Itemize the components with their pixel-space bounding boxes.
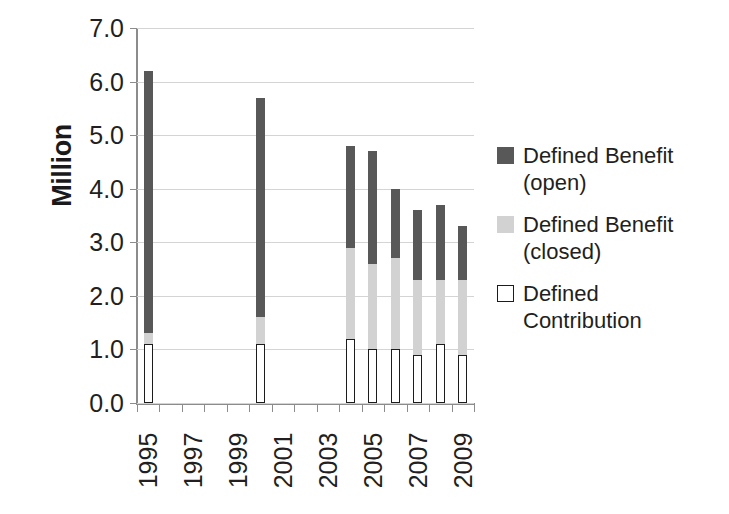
bar-segment-defined-benefit-closed[interactable] [256,317,265,344]
x-tick-mark [227,404,228,412]
y-tick-mark [130,28,137,29]
bar-segment-defined-benefit-closed[interactable] [144,333,153,344]
x-tick-mark [317,404,318,412]
y-tick-mark [130,82,137,83]
gridline [137,296,474,297]
bar-segment-defined-benefit-closed[interactable] [413,280,422,355]
gridline [137,189,474,190]
bar-segment-defined-benefit-open[interactable] [436,205,445,280]
x-tick-mark [159,404,160,412]
x-tick-label-2001: 2001 [271,421,296,501]
gridline [137,28,474,29]
bar-2004[interactable] [346,146,355,403]
x-tick-mark [249,404,250,412]
bar-2008[interactable] [436,205,445,403]
stacked-bar-chart: Million 0.01.02.03.04.05.06.07.0 1995199… [0,0,729,514]
x-axis-tick-labels: 19951997199920012003200520072009 [137,412,477,512]
bar-2006[interactable] [391,189,400,403]
y-tick-mark [130,242,137,243]
y-tick-mark [130,349,137,350]
x-tick-mark [182,404,183,412]
bar-segment-defined-contribution[interactable] [346,339,355,403]
gridline [137,82,474,83]
gridline [137,349,474,350]
y-tick-label: 0.0 [58,391,124,416]
y-tick-label: 7.0 [58,16,124,41]
y-tick-mark [130,296,137,297]
legend-label-line2: (closed) [523,238,673,265]
x-tick-mark [384,404,385,412]
bar-segment-defined-benefit-open[interactable] [458,226,467,280]
legend-swatch-icon [497,216,514,233]
bar-segment-defined-benefit-open[interactable] [391,189,400,259]
bar-segment-defined-contribution[interactable] [368,349,377,403]
gridline [137,242,474,243]
bar-2007[interactable] [413,210,422,403]
y-tick-label: 5.0 [58,123,124,148]
bar-segment-defined-benefit-open[interactable] [346,146,355,248]
bar-segment-defined-benefit-closed[interactable] [458,280,467,355]
gridline [137,135,474,136]
bar-segment-defined-benefit-open[interactable] [413,210,422,280]
x-tick-mark [474,404,475,412]
bar-2009[interactable] [458,226,467,403]
bar-segment-defined-benefit-closed[interactable] [346,248,355,339]
x-tick-label-1995: 1995 [136,421,161,501]
x-tick-label-1999: 1999 [226,421,251,501]
bar-2005[interactable] [368,151,377,403]
bar-2000[interactable] [256,98,265,403]
y-tick-label: 3.0 [58,230,124,255]
y-tick-label: 6.0 [58,70,124,95]
bar-segment-defined-contribution[interactable] [436,344,445,403]
x-tick-mark [272,404,273,412]
bar-segment-defined-contribution[interactable] [458,355,467,403]
y-axis-tick-labels: 0.01.02.03.04.05.06.07.0 [58,0,124,514]
plot-background [137,28,474,403]
plot-area [137,28,474,403]
y-tick-label: 2.0 [58,284,124,309]
legend-item-1[interactable]: Defined Benefit(closed) [497,211,722,265]
x-tick-mark [429,404,430,412]
gridline [137,403,474,404]
legend-label: Defined Benefit(open) [523,142,673,196]
bar-segment-defined-benefit-closed[interactable] [436,280,445,344]
y-tick-mark [130,135,137,136]
chart-legend: Defined Benefit(open)Defined Benefit(clo… [497,142,722,349]
x-tick-mark [407,404,408,412]
legend-label-line2: Contribution [523,307,642,334]
legend-label: DefinedContribution [523,280,642,334]
x-tick-mark [137,404,138,412]
legend-swatch-icon [497,285,514,302]
legend-label-line1: Defined [523,281,599,306]
x-tick-mark [204,404,205,412]
legend-item-2[interactable]: DefinedContribution [497,280,722,334]
y-tick-mark [130,189,137,190]
bar-segment-defined-contribution[interactable] [391,349,400,403]
y-axis-line [136,28,138,404]
x-tick-mark [362,404,363,412]
x-tick-label-2003: 2003 [315,421,340,501]
x-tick-label-2007: 2007 [405,421,430,501]
x-tick-mark [452,404,453,412]
bar-segment-defined-benefit-open[interactable] [144,71,153,334]
x-tick-mark [339,404,340,412]
x-tick-label-2005: 2005 [360,421,385,501]
y-tick-mark [130,403,137,404]
y-tick-label: 1.0 [58,337,124,362]
legend-swatch-icon [497,147,514,164]
legend-label-line1: Defined Benefit [523,212,673,237]
bar-segment-defined-benefit-open[interactable] [368,151,377,264]
bar-segment-defined-contribution[interactable] [256,344,265,403]
bar-segment-defined-benefit-closed[interactable] [391,258,400,349]
x-tick-mark [294,404,295,412]
bar-segment-defined-benefit-open[interactable] [256,98,265,318]
bar-segment-defined-contribution[interactable] [413,355,422,403]
legend-label-line2: (open) [523,169,673,196]
legend-label-line1: Defined Benefit [523,143,673,168]
x-tick-label-1997: 1997 [181,421,206,501]
bar-segment-defined-benefit-closed[interactable] [368,264,377,350]
y-tick-label: 4.0 [58,177,124,202]
bar-segment-defined-contribution[interactable] [144,344,153,403]
bar-1995[interactable] [144,71,153,403]
legend-item-0[interactable]: Defined Benefit(open) [497,142,722,196]
